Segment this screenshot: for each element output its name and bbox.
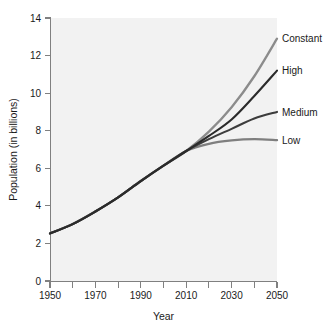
y-tick-label-2: 2 [35,238,41,249]
y-tick-label-0: 0 [35,276,41,287]
y-tick-label-6: 6 [35,163,41,174]
plot-area-background [50,18,277,281]
x-tick-label-2050: 2050 [266,290,289,301]
y-tick-label-12: 12 [30,50,42,61]
x-tick-label-2010: 2010 [175,290,198,301]
x-tick-label-1950: 1950 [39,290,62,301]
legend-label-constant: Constant [282,33,322,44]
population-projection-chart: 02468101214 195019701990201020302050 Con… [0,0,333,329]
legend-label-low: Low [282,135,301,146]
y-tick-label-8: 8 [35,125,41,136]
y-axis-title: Population (in billions) [7,98,19,201]
x-tick-label-1970: 1970 [84,290,107,301]
x-tick-label-1990: 1990 [130,290,153,301]
legend-label-high: High [282,65,303,76]
y-tick-label-10: 10 [30,88,42,99]
x-tick-label-2030: 2030 [220,290,243,301]
legend-label-medium: Medium [282,107,318,118]
population-projection-figure: 02468101214 195019701990201020302050 Con… [0,0,333,329]
y-tick-label-14: 14 [30,13,42,24]
y-tick-label-4: 4 [35,200,41,211]
x-axis-title: Year [153,310,175,322]
